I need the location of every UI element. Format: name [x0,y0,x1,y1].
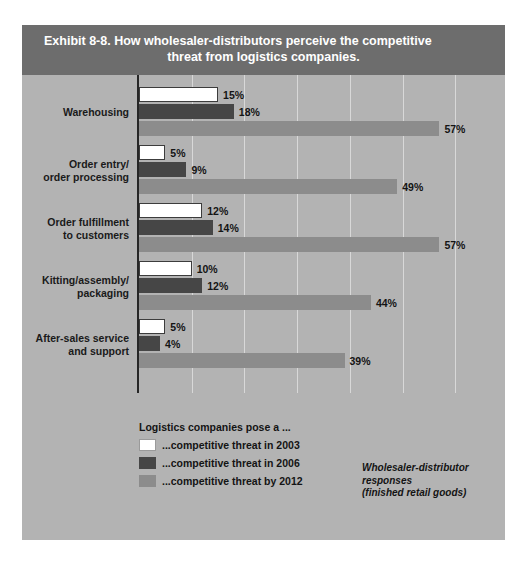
bar-value-label: 10% [197,263,218,275]
legend-title: Logistics companies pose a ... [139,421,499,433]
chart-category-group: Order entry/order processing5%9%49% [22,141,505,199]
bar-group: 15%18%57% [139,87,465,138]
bar-row: 15% [139,87,465,102]
bar-row: 5% [139,145,423,160]
bar-value-label: 18% [239,106,260,118]
bar [139,278,202,293]
bar [139,121,439,136]
bar [139,145,165,160]
exhibit-title-band: Exhibit 8-8. How wholesaler-distributors… [22,25,505,75]
bar [139,353,345,368]
bar-row: 44% [139,295,397,310]
bar-value-label: 5% [170,147,185,159]
bar [139,203,202,218]
bar-row: 5% [139,319,371,334]
bar-row: 57% [139,121,465,136]
category-label: Order entry/order processing [22,158,129,183]
bar-value-label: 9% [191,164,206,176]
legend-label: ...competitive threat in 2006 [162,457,300,469]
bar [139,237,439,252]
chart-category-group: Warehousing15%18%57% [22,83,505,141]
bar [139,162,186,177]
bar-row: 10% [139,261,397,276]
bar [139,295,371,310]
chart-plot-area: Warehousing15%18%57%Order entry/order pr… [22,75,505,395]
chart-category-group: Kitting/assembly/packaging10%12%44% [22,257,505,315]
bar-value-label: 15% [223,89,244,101]
bar-row: 12% [139,203,465,218]
exhibit-title-line-1: Exhibit 8-8. How wholesaler-distributors… [44,33,483,49]
bar [139,319,165,334]
bar-value-label: 14% [218,222,239,234]
chart-source-note: Wholesaler-distributor responses (finish… [362,462,505,500]
bar-row: 49% [139,179,423,194]
bar-row: 4% [139,336,371,351]
bar-row: 39% [139,353,371,368]
bar [139,220,213,235]
bar-row: 9% [139,162,423,177]
bar [139,261,192,276]
legend-swatch [139,475,156,487]
bar-row: 57% [139,237,465,252]
bar-value-label: 39% [350,355,371,367]
category-label: After-sales serviceand support [22,332,129,357]
legend-label: ...competitive threat in 2003 [162,439,300,451]
bar-value-label: 49% [402,181,423,193]
bar-row: 18% [139,104,465,119]
bar-group: 5%4%39% [139,319,371,370]
legend-item: ...competitive threat in 2003 [139,437,499,452]
bar-value-label: 12% [207,205,228,217]
bar-row: 12% [139,278,397,293]
legend-label: ...competitive threat by 2012 [162,475,303,487]
legend-swatch [139,457,156,469]
bar [139,336,160,351]
bar-value-label: 44% [376,297,397,309]
chart-category-group: Order fulfillmentto customers12%14%57% [22,199,505,257]
bar-value-label: 12% [207,280,228,292]
bar-group: 10%12%44% [139,261,397,312]
category-label: Warehousing [22,106,129,119]
bar-value-label: 57% [444,239,465,251]
chart-category-group: After-sales serviceand support5%4%39% [22,315,505,373]
exhibit-figure: Exhibit 8-8. How wholesaler-distributors… [22,25,505,540]
bar-row: 14% [139,220,465,235]
category-label: Order fulfillmentto customers [22,216,129,241]
bar [139,179,397,194]
bar-value-label: 57% [444,123,465,135]
bar-group: 5%9%49% [139,145,423,196]
bar-value-label: 5% [170,321,185,333]
source-note-line-2: (finished retail goods) [362,487,505,500]
bar [139,104,234,119]
bar-value-label: 4% [165,338,180,350]
exhibit-title-line-2: threat from logistics companies. [44,49,483,65]
bar [139,87,218,102]
chart-value-axis [137,75,139,393]
legend-swatch [139,439,156,451]
bar-group: 12%14%57% [139,203,465,254]
source-note-line-1: Wholesaler-distributor responses [362,462,505,487]
category-label: Kitting/assembly/packaging [22,274,129,299]
